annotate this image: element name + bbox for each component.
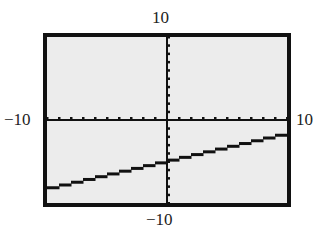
- x-tick: [250, 117, 253, 120]
- data-line-segment: [167, 159, 180, 162]
- data-line-segment: [263, 137, 276, 140]
- y-tick: [167, 61, 170, 64]
- y-tick: [167, 169, 170, 172]
- x-tick: [58, 117, 61, 120]
- x-tick: [274, 117, 277, 120]
- x-tick: [70, 117, 73, 120]
- x-tick: [130, 117, 133, 120]
- y-tick: [167, 202, 170, 205]
- x-tick: [94, 117, 97, 120]
- y-tick: [167, 86, 170, 89]
- data-line-segment: [227, 145, 240, 148]
- data-line-segment: [131, 167, 144, 170]
- data-line-segment: [119, 170, 132, 173]
- data-line-segment: [275, 134, 288, 137]
- y-min-label: −10: [146, 210, 173, 230]
- x-tick: [202, 117, 205, 120]
- data-line-segment: [71, 181, 84, 184]
- x-tick: [286, 117, 289, 120]
- x-max-label: 10: [296, 110, 313, 130]
- data-line-segment: [251, 139, 264, 142]
- calculator-screen: [43, 33, 291, 207]
- data-line-segment: [179, 156, 192, 159]
- data-line-segment: [239, 142, 252, 145]
- y-tick: [167, 36, 170, 39]
- data-line-segment: [143, 164, 156, 167]
- data-line-segment: [47, 186, 60, 189]
- data-line-segment: [203, 150, 216, 153]
- data-line-segment: [59, 183, 72, 186]
- data-line-segment: [191, 153, 204, 156]
- y-tick: [167, 144, 170, 147]
- y-tick: [167, 94, 170, 97]
- y-tick: [167, 111, 170, 114]
- data-line-segment: [95, 175, 108, 178]
- y-tick: [167, 152, 170, 155]
- x-min-label: −10: [4, 110, 31, 130]
- data-line-segment: [83, 178, 96, 181]
- y-max-label: 10: [152, 8, 169, 28]
- y-tick: [167, 69, 170, 72]
- data-line-segment: [107, 172, 120, 175]
- x-tick: [214, 117, 217, 120]
- x-tick: [118, 117, 121, 120]
- data-line-segment: [155, 161, 168, 164]
- x-tick: [154, 117, 157, 120]
- x-tick: [46, 117, 49, 120]
- y-tick: [167, 44, 170, 47]
- data-line-segment: [215, 148, 228, 151]
- x-tick: [106, 117, 109, 120]
- y-tick: [167, 127, 170, 130]
- x-tick: [82, 117, 85, 120]
- x-tick: [238, 117, 241, 120]
- x-tick: [142, 117, 145, 120]
- y-tick: [167, 177, 170, 180]
- y-tick: [167, 185, 170, 188]
- x-tick: [178, 117, 181, 120]
- x-tick: [190, 117, 193, 120]
- y-tick: [167, 78, 170, 81]
- y-tick: [167, 194, 170, 197]
- x-tick: [226, 117, 229, 120]
- y-tick: [167, 102, 170, 105]
- x-tick: [262, 117, 265, 120]
- y-tick: [167, 136, 170, 139]
- y-tick: [167, 53, 170, 56]
